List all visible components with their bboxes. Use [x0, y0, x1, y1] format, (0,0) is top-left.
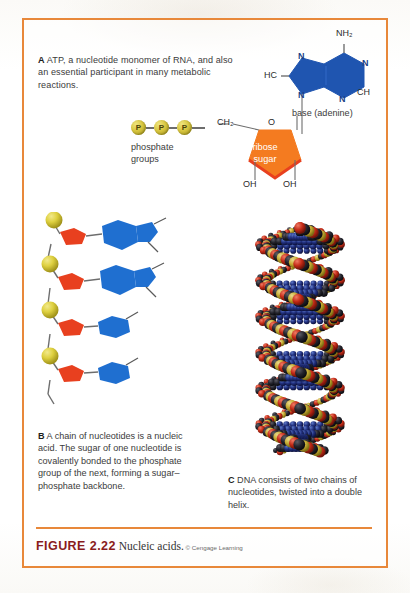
base-link-bond [84, 372, 98, 373]
figure-page: A ATP, a nucleotide monomer of RNA, and … [0, 0, 410, 593]
adenine-label-nh2: NH₂ [336, 28, 353, 38]
adenine-label-n-top-right: N [362, 58, 369, 68]
nucleotide-chain-diagram [40, 212, 200, 412]
phosphate-circle-2: P [154, 120, 169, 135]
ribose-ring-oxygen-label: O [268, 117, 275, 127]
ribose-svg [205, 116, 325, 194]
adenine-label-ch-right: CH [357, 87, 370, 97]
base-hexagon-fused [136, 222, 158, 242]
phosphate-label-line2: groups [131, 154, 173, 166]
oxygen-atom [293, 258, 305, 270]
phosphate-bond-2 [169, 127, 177, 129]
base-link-bond [86, 234, 102, 236]
oxygen-atom [292, 294, 304, 306]
carbon-atom [296, 331, 308, 343]
phosphate-sphere [46, 212, 63, 229]
figure-credit: © Cengage Learning [186, 544, 243, 551]
panel-b-caption-text: A chain of nucleotides is a nucleic acid… [38, 431, 183, 491]
hydroxyl-right-label: OH [283, 179, 297, 189]
base-hexagon-fused [134, 267, 156, 287]
phosphate-sphere [42, 348, 59, 365]
panel-a-caption-text: ATP, a nucleotide monomer of RNA, and al… [38, 55, 233, 90]
base-hexagon [102, 220, 138, 250]
ch2-bond [233, 124, 259, 130]
base-hexagon [100, 265, 136, 295]
panel-a-caption: A ATP, a nucleotide monomer of RNA, and … [38, 54, 234, 91]
phosphate-groups-diagram: P P P [131, 120, 207, 140]
adenine-label-n-bottom-left: N [298, 90, 305, 100]
dna-helix-svg [240, 222, 360, 460]
base-hexagon [98, 362, 130, 384]
phosphate-circle-3: P [177, 120, 192, 135]
figure-number: FIGURE 2.22 [36, 539, 116, 553]
panel-a-letter: A [38, 55, 45, 65]
adenine-label-n-top-left: N [298, 51, 305, 61]
base-stub-bond [154, 218, 166, 224]
nucleotide-chain-svg [40, 212, 200, 412]
panel-c-caption: C DNA consists of two chains of nucleoti… [228, 474, 384, 511]
phosphate-bond-3 [192, 127, 205, 129]
panel-b-caption: B A chain of nucleotides is a nucleic ac… [38, 430, 198, 492]
sugar-pentagon [58, 319, 84, 336]
phosphate-groups-label: phosphate groups [131, 142, 173, 165]
ribose-sugar-diagram: CH₂ O ribose sugar OH OH [205, 116, 325, 194]
figure-caption: FIGURE 2.22 Nucleic acids. © Cengage Lea… [36, 536, 366, 554]
oxygen-atom [294, 222, 306, 234]
dna-double-helix-model [240, 222, 360, 460]
phosphate-label-line1: phosphate [131, 142, 173, 154]
panel-b-letter: B [38, 431, 45, 441]
figure-caption-rule [36, 527, 372, 529]
ribose-ch2-label: CH₂ [217, 117, 234, 127]
panel-c-letter: C [228, 475, 235, 485]
sugar-pentagon [58, 273, 84, 290]
phosphate-circle-1: P [131, 120, 146, 135]
hydroxyl-left-label: OH [243, 179, 257, 189]
carbon-atom [294, 403, 306, 415]
phosphate-sphere [42, 256, 59, 273]
adenine-label-hc: HC [264, 70, 277, 80]
phosphate-sphere [42, 302, 59, 319]
adenine-five-ring [289, 58, 324, 94]
base-stub-bond [152, 263, 164, 269]
base-link-bond [84, 326, 98, 327]
carbon-atom [295, 367, 307, 379]
sugar-pentagon [60, 228, 86, 245]
base-stub-bond [126, 358, 138, 365]
adenine-label-n-bottom-right: N [339, 94, 346, 104]
base-stub-bond [126, 312, 138, 319]
carbon-atom [328, 285, 335, 292]
sugar-pentagon [58, 365, 84, 382]
base-hexagon [98, 316, 130, 338]
backbone-tail [48, 394, 54, 404]
panel-c-caption-text: DNA consists of two chains of nucleotide… [228, 475, 362, 510]
figure-title: Nucleic acids. [119, 540, 184, 552]
base-stub-bond [148, 242, 158, 252]
ribose-pentagon [249, 130, 301, 178]
base-stub-bond [146, 287, 156, 297]
carbon-atom [293, 439, 305, 451]
base-link-bond [84, 279, 100, 281]
phosphate-bond-1 [146, 127, 154, 129]
